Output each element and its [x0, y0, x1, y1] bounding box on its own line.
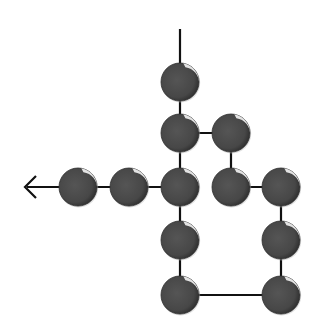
edges [27, 29, 281, 295]
node-ball [262, 168, 301, 207]
node-ball [59, 168, 98, 207]
node-ball [161, 168, 200, 207]
node-ball [161, 63, 200, 102]
diagram-canvas [0, 0, 324, 336]
node-ball [110, 168, 149, 207]
node-ball [212, 114, 251, 153]
node-ball [262, 221, 301, 260]
nodes [59, 63, 301, 315]
node-ball [161, 221, 200, 260]
node-ball [262, 276, 301, 315]
node-ball [161, 276, 200, 315]
node-ball [212, 168, 251, 207]
node-chain-diagram [0, 0, 324, 336]
node-ball [161, 114, 200, 153]
